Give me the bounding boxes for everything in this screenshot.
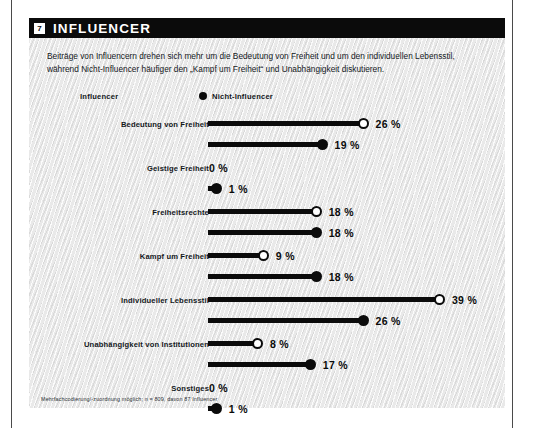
filled-circle-icon bbox=[211, 403, 222, 414]
section-number-badge: 7 bbox=[34, 23, 45, 34]
influencer-chart-card: 7 INFLUENCER Beiträge von Influencern dr… bbox=[29, 18, 505, 408]
bar-line bbox=[208, 209, 314, 214]
value-label: 39 % bbox=[452, 294, 477, 306]
page-title: INFLUENCER bbox=[53, 21, 151, 36]
data-point-nicht-influencer: 1 % bbox=[208, 179, 248, 199]
chart-row: 26 % bbox=[208, 311, 505, 331]
chart-legend: Influencer Nicht-Influencer bbox=[29, 88, 505, 110]
value-label: 1 % bbox=[229, 403, 248, 415]
data-point-nicht-influencer: 26 % bbox=[208, 311, 401, 331]
value-label: 0 % bbox=[209, 382, 228, 394]
category-label: Unabhängigkeit von Institutionen bbox=[29, 340, 209, 349]
chart-row: 0 % bbox=[208, 158, 505, 178]
value-label: 19 % bbox=[335, 139, 360, 151]
card-header: 7 INFLUENCER bbox=[29, 18, 505, 38]
hollow-circle-icon bbox=[358, 118, 369, 129]
data-point-nicht-influencer: 19 % bbox=[208, 135, 360, 155]
chart-plot-area: Bedeutung von Freiheit26 %19 %Geistige F… bbox=[29, 112, 505, 380]
data-point-influencer: 0 % bbox=[208, 378, 228, 398]
chart-group: Geistige Freiheit0 %1 % bbox=[29, 156, 505, 200]
legend-item-nicht-influencer: Nicht-Influencer bbox=[199, 92, 273, 101]
legend-item-influencer: Influencer bbox=[67, 92, 118, 101]
page-margin-rule-right bbox=[512, 0, 513, 428]
chart-row: 9 % bbox=[208, 246, 505, 266]
category-label: Individueller Lebensstil bbox=[29, 296, 209, 305]
bar-line bbox=[208, 121, 361, 126]
value-label: 17 % bbox=[323, 359, 348, 371]
value-label: 0 % bbox=[209, 162, 228, 174]
chart-row: 17 % bbox=[208, 355, 505, 375]
filled-circle-icon bbox=[199, 92, 207, 100]
chart-group: Unabhängigkeit von Institutionen8 %17 % bbox=[29, 332, 505, 376]
intro-paragraph: Beiträge von Influencern drehen sich meh… bbox=[47, 50, 487, 76]
filled-circle-icon bbox=[311, 271, 322, 282]
bar-line bbox=[208, 318, 361, 323]
data-point-influencer: 9 % bbox=[208, 246, 295, 266]
data-point-influencer: 39 % bbox=[208, 290, 477, 310]
bar-line bbox=[208, 253, 261, 258]
chart-row: 18 % bbox=[208, 202, 505, 222]
data-point-influencer: 26 % bbox=[208, 114, 401, 134]
filled-circle-icon bbox=[211, 183, 222, 194]
footnote: Mehrfachcodierung/-zuordnung möglich; n … bbox=[41, 396, 217, 402]
legend-label-influencer: Influencer bbox=[80, 92, 118, 101]
data-point-influencer: 8 % bbox=[208, 334, 289, 354]
data-point-influencer: 18 % bbox=[208, 202, 354, 222]
value-label: 18 % bbox=[329, 227, 354, 239]
value-label: 8 % bbox=[270, 338, 289, 350]
chart-row: 18 % bbox=[208, 223, 505, 243]
value-label: 1 % bbox=[229, 183, 248, 195]
category-label: Bedeutung von Freiheit bbox=[29, 120, 209, 129]
data-point-influencer: 0 % bbox=[208, 158, 228, 178]
data-point-nicht-influencer: 17 % bbox=[208, 355, 348, 375]
chart-row: 8 % bbox=[208, 334, 505, 354]
bar-line bbox=[208, 274, 314, 279]
chart-row: 39 % bbox=[208, 290, 505, 310]
chart-group: Bedeutung von Freiheit26 %19 % bbox=[29, 112, 505, 156]
chart-group: Individueller Lebensstil39 %26 % bbox=[29, 288, 505, 332]
bar-line bbox=[208, 297, 437, 302]
page-margin-rule-left bbox=[11, 0, 12, 428]
filled-circle-icon bbox=[358, 315, 369, 326]
filled-circle-icon bbox=[311, 227, 322, 238]
value-label: 18 % bbox=[329, 206, 354, 218]
chart-row: 1 % bbox=[208, 179, 505, 199]
category-label: Kampf um Freiheit bbox=[29, 252, 209, 261]
chart-row: 1 % bbox=[208, 399, 505, 419]
value-label: 26 % bbox=[376, 118, 401, 130]
data-point-nicht-influencer: 18 % bbox=[208, 223, 354, 243]
chart-row: 18 % bbox=[208, 267, 505, 287]
filled-circle-icon bbox=[305, 359, 316, 370]
value-label: 18 % bbox=[329, 271, 354, 283]
hollow-circle-icon bbox=[252, 338, 263, 349]
bar-line bbox=[208, 341, 255, 346]
hollow-circle-icon bbox=[311, 206, 322, 217]
chart-group: Freiheitsrechte18 %18 % bbox=[29, 200, 505, 244]
hollow-circle-icon bbox=[258, 250, 269, 261]
chart-row: 19 % bbox=[208, 135, 505, 155]
hollow-circle-icon bbox=[434, 294, 445, 305]
data-point-nicht-influencer: 18 % bbox=[208, 267, 354, 287]
filled-circle-icon bbox=[317, 139, 328, 150]
category-label: Sonstiges bbox=[29, 384, 209, 393]
category-label: Geistige Freiheit bbox=[29, 164, 209, 173]
chart-row: 26 % bbox=[208, 114, 505, 134]
legend-label-nicht-influencer: Nicht-Influencer bbox=[212, 92, 273, 101]
value-label: 26 % bbox=[376, 315, 401, 327]
value-label: 9 % bbox=[276, 250, 295, 262]
bar-line bbox=[208, 230, 314, 235]
category-label: Freiheitsrechte bbox=[29, 208, 209, 217]
bar-line bbox=[208, 362, 308, 367]
chart-group: Kampf um Freiheit9 %18 % bbox=[29, 244, 505, 288]
bar-line bbox=[208, 142, 320, 147]
chart-row: 0 % bbox=[208, 378, 505, 398]
